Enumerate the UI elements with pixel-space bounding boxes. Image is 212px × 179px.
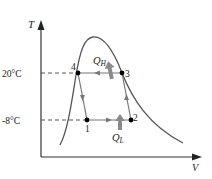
state-label-1: 1 (85, 124, 90, 134)
x-axis (41, 154, 202, 161)
q-low-arrow-icon (115, 114, 125, 130)
arrow-right-icon (106, 118, 112, 123)
y-axis (38, 20, 45, 157)
state-point-3 (120, 71, 125, 76)
arrow-down-icon (80, 95, 85, 101)
state-label-2: 2 (133, 113, 138, 123)
q-high-label: QH (93, 55, 107, 68)
refrigeration-cycle (78, 73, 131, 120)
state-label-3: 3 (125, 69, 130, 79)
state-point-4 (76, 71, 81, 76)
q-low-label: QL (112, 132, 124, 145)
arrow-up-icon (124, 94, 129, 100)
temp-high-label: 20°C (2, 69, 22, 79)
state-point-1 (85, 118, 90, 123)
y-axis-label: T (28, 18, 35, 30)
x-axis-label: V (192, 162, 200, 173)
t-v-diagram: T V 20°C -8°C QH QL 1 2 3 4 (0, 0, 212, 179)
arrow-left-icon (94, 71, 100, 76)
temp-low-label: -8°C (2, 116, 20, 126)
y-axis-arrow-icon (38, 20, 45, 30)
state-label-4: 4 (71, 62, 76, 72)
x-axis-arrow-icon (192, 154, 202, 161)
